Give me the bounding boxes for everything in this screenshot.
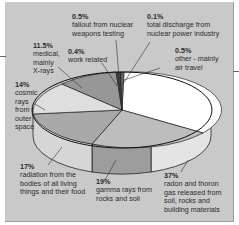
label-radon: 37% radon and thoron gas released from s… xyxy=(164,172,222,214)
label-medical-line: X-rays xyxy=(33,67,60,75)
label-cosmic-line: space xyxy=(15,123,37,131)
label-work-line: work related xyxy=(68,56,107,64)
label-fallout-line: weapons testing xyxy=(72,30,133,38)
pie-side-gamma xyxy=(92,144,151,174)
label-nuclear-line: nuclear power industry xyxy=(147,30,219,38)
label-gamma-line: rocks and soil xyxy=(96,195,152,203)
label-radon-line: building materials xyxy=(164,206,222,214)
label-gamma: 19% gamma rays from rocks and soil xyxy=(96,178,152,203)
label-fallout: 0.5% fallout from nuclear weapons testin… xyxy=(72,13,133,38)
label-other-line: air travel xyxy=(175,64,219,72)
label-cosmic: 14% cosmic rays from outer space xyxy=(15,81,37,131)
label-nuclear: 0.1% total discharge from nuclear power … xyxy=(147,13,219,38)
label-other: 0.5% other - mainly air travel xyxy=(175,47,219,72)
label-work: 0.4% work related xyxy=(68,48,107,65)
label-medical: 11.5% medical, mainly X-rays xyxy=(33,42,60,76)
label-bodies-line: things and their food xyxy=(20,188,85,196)
label-bodies: 17% radiation from the bodies of all liv… xyxy=(20,163,85,197)
